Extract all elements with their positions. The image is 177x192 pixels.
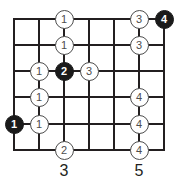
finger-marker-label: 3 xyxy=(86,65,92,76)
finger-marker-open-4-s5[interactable]: 4 xyxy=(130,115,149,134)
finger-marker-label: 1 xyxy=(61,39,67,50)
finger-marker-open-1-s4[interactable]: 1 xyxy=(30,88,49,107)
finger-marker-label: 1 xyxy=(36,118,42,129)
finger-marker-open-4-s4[interactable]: 4 xyxy=(130,88,149,107)
finger-marker-label: 4 xyxy=(136,118,142,129)
fret-number-3: 3 xyxy=(60,162,69,180)
fret-line-4 xyxy=(113,18,115,151)
finger-marker-label: 4 xyxy=(136,91,142,102)
fret-number-5: 5 xyxy=(135,162,144,180)
finger-marker-open-3-s3[interactable]: 3 xyxy=(80,62,99,81)
finger-marker-root-1-s5[interactable]: 1 xyxy=(5,115,24,134)
finger-marker-label: 1 xyxy=(36,91,42,102)
finger-marker-open-1-s5[interactable]: 1 xyxy=(30,115,49,134)
finger-marker-root-4-s1[interactable]: 4 xyxy=(155,10,174,29)
finger-marker-label: 3 xyxy=(136,13,142,24)
finger-marker-label: 1 xyxy=(61,13,67,24)
fret-line-6 xyxy=(163,18,165,151)
finger-marker-open-2-s6[interactable]: 2 xyxy=(55,141,74,160)
fret-line-3 xyxy=(88,18,90,151)
finger-marker-label: 1 xyxy=(36,65,42,76)
finger-marker-open-1-s1[interactable]: 1 xyxy=(55,10,74,29)
finger-marker-label: 4 xyxy=(136,144,142,155)
finger-marker-label: 4 xyxy=(161,13,167,24)
finger-marker-label: 2 xyxy=(61,65,67,76)
finger-marker-open-3-s1[interactable]: 3 xyxy=(130,10,149,29)
finger-marker-open-4-s6[interactable]: 4 xyxy=(130,141,149,160)
finger-marker-root-2-s3[interactable]: 2 xyxy=(55,62,74,81)
fretboard-grid xyxy=(0,0,177,192)
finger-marker-label: 1 xyxy=(11,118,17,129)
finger-marker-open-1-s2[interactable]: 1 xyxy=(55,36,74,55)
finger-marker-label: 3 xyxy=(136,39,142,50)
finger-marker-open-1-s3[interactable]: 1 xyxy=(30,62,49,81)
finger-marker-label: 2 xyxy=(61,144,67,155)
fretboard-diagram: 134131231411424 35 xyxy=(0,0,177,192)
finger-marker-open-3-s2[interactable]: 3 xyxy=(130,36,149,55)
